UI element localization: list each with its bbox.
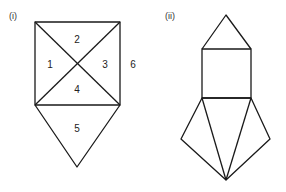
top-triangle	[202, 15, 251, 49]
middle-square	[202, 49, 251, 98]
region-6-label: 6	[130, 59, 136, 70]
fan-line-left	[202, 98, 226, 180]
bottom-fan-outline	[181, 98, 270, 180]
figure-i: (i) 1 2 3 4 5 6	[9, 11, 136, 167]
region-5-label: 5	[74, 123, 80, 134]
region-4-label: 4	[74, 84, 80, 95]
figure-ii: (ii)	[165, 11, 270, 180]
region-3-label: 3	[102, 59, 108, 70]
region-2-label: 2	[74, 34, 80, 45]
figure-i-label: (i)	[9, 11, 17, 21]
region-1-label: 1	[47, 59, 53, 70]
bottom-triangle	[35, 105, 120, 167]
diagram-canvas: (i) 1 2 3 4 5 6 (ii)	[0, 0, 286, 192]
figure-ii-label: (ii)	[165, 11, 175, 21]
